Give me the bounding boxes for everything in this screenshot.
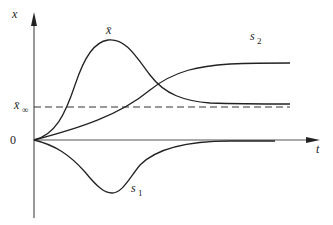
curve-s1 xyxy=(34,140,275,193)
steady-state-label-subscript: ∞ xyxy=(22,105,28,115)
steady-state-label: x̄ ∞ xyxy=(13,98,28,115)
x-axis-label: t xyxy=(316,142,320,156)
curve-x-bar xyxy=(34,40,290,140)
curve-x-bar-label: x̄ xyxy=(105,23,112,37)
curve-s2-label-subscript: 2 xyxy=(257,36,262,46)
y-axis xyxy=(31,12,37,218)
x-axis xyxy=(34,137,320,143)
origin-label: 0 xyxy=(10,133,16,147)
steady-state-label-main: x̄ xyxy=(13,98,20,112)
curve-s2 xyxy=(34,63,290,140)
curve-s1-label-subscript: 1 xyxy=(138,188,143,198)
response-diagram: x t 0 x̄ ∞ x̄ s 2 s 1 xyxy=(0,0,333,225)
y-axis-label: x xyxy=(11,7,18,21)
curve-s2-label: s 2 xyxy=(250,29,262,46)
y-axis-arrow-icon xyxy=(31,12,37,26)
curve-s1-label-main: s xyxy=(131,181,136,195)
curve-s2-label-main: s xyxy=(250,29,255,43)
curve-s1-label: s 1 xyxy=(131,181,143,198)
